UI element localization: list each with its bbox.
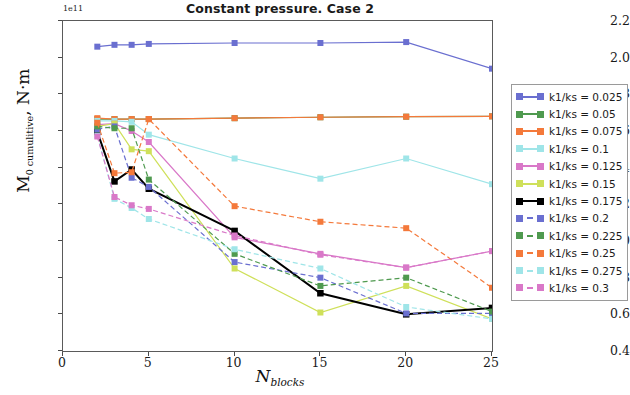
x-tick-label: 0 — [58, 355, 66, 370]
series-path — [97, 116, 492, 119]
x-tick-mark — [319, 352, 320, 356]
legend-label: k1/ks = 0.125 — [545, 160, 622, 172]
data-point-marker — [129, 169, 135, 175]
legend-marker — [516, 215, 523, 222]
y-tick-label: 2.2 — [572, 13, 630, 28]
legend-marker — [537, 111, 544, 118]
legend-item[interactable]: k1/ks = 0.275 — [515, 262, 625, 279]
legend-marker — [516, 111, 523, 118]
data-point-marker — [146, 41, 152, 47]
data-point-marker — [403, 304, 409, 310]
legend-swatch — [515, 247, 545, 259]
data-point-marker — [111, 194, 117, 200]
data-point-marker — [317, 252, 323, 258]
data-point-marker — [403, 283, 409, 289]
data-point-marker — [317, 40, 323, 46]
data-point-marker — [317, 176, 323, 182]
data-point-marker — [146, 116, 152, 122]
legend-item[interactable]: k1/ks = 0.2 — [515, 210, 625, 227]
x-axis-label: Nblocks — [170, 366, 390, 388]
legend-label: k1/ks = 0.1 — [545, 143, 609, 155]
data-point-marker — [489, 66, 492, 72]
series-path — [97, 124, 492, 268]
legend-marker — [516, 250, 523, 257]
x-tick-mark — [148, 352, 149, 356]
legend-item[interactable]: k1/ks = 0.15 — [515, 175, 625, 192]
legend-item[interactable]: k1/ks = 0.075 — [515, 123, 625, 140]
legend-label: k1/ks = 0.2 — [545, 212, 609, 224]
legend-label: k1/ks = 0.05 — [545, 108, 616, 120]
y-axis-label-subscript: 0 cumulitive — [24, 116, 35, 176]
data-point-marker — [403, 156, 409, 162]
data-point-marker — [146, 216, 152, 222]
legend-item[interactable]: k1/ks = 0.175 — [515, 192, 625, 209]
data-point-marker — [129, 119, 135, 125]
series-line — [94, 116, 492, 291]
x-tick-mark — [62, 352, 63, 356]
legend-swatch — [515, 230, 545, 242]
data-point-marker — [129, 125, 135, 131]
data-point-marker — [94, 120, 100, 126]
x-tick-mark — [491, 352, 492, 356]
chart-title: Constant pressure. Case 2 — [95, 1, 465, 16]
series-line — [94, 121, 492, 322]
y-axis-label: M0 cumulitive, N·m — [13, 11, 34, 251]
legend-marker — [516, 128, 523, 135]
x-tick-label: 20 — [397, 355, 413, 370]
data-point-marker — [232, 203, 238, 209]
legend-marker — [537, 180, 544, 187]
legend-item[interactable]: k1/ks = 0.025 — [515, 88, 625, 105]
data-point-marker — [146, 206, 152, 212]
data-point-marker — [317, 275, 323, 281]
legend-item[interactable]: k1/ks = 0.225 — [515, 227, 625, 244]
data-point-marker — [146, 184, 152, 190]
legend-item[interactable]: k1/ks = 0.05 — [515, 105, 625, 122]
x-tick-label: 25 — [483, 355, 499, 370]
legend-marker — [537, 93, 544, 100]
series-line — [94, 123, 492, 316]
y-tick-label: 0.6 — [572, 306, 630, 321]
chart-figure: Constant pressure. Case 2 1e11 0.40.60.8… — [0, 0, 630, 395]
data-point-marker — [489, 113, 492, 119]
series-line — [94, 118, 492, 187]
plot-canvas — [63, 21, 492, 351]
legend-marker — [537, 145, 544, 152]
series-path — [97, 136, 492, 319]
data-point-marker — [232, 259, 238, 265]
legend-marker — [537, 163, 544, 170]
legend-item[interactable]: k1/ks = 0.25 — [515, 245, 625, 262]
plot-area — [62, 20, 493, 352]
legend-label: k1/ks = 0.025 — [545, 91, 622, 103]
legend-marker — [537, 232, 544, 239]
legend-item[interactable]: k1/ks = 0.125 — [515, 158, 625, 175]
legend-marker — [537, 198, 544, 205]
legend-item[interactable]: k1/ks = 0.1 — [515, 140, 625, 157]
series-path — [97, 137, 492, 268]
data-point-marker — [317, 266, 323, 272]
legend-marker — [516, 198, 523, 205]
data-point-marker — [317, 114, 323, 120]
data-point-marker — [403, 265, 409, 271]
x-tick-mark — [405, 352, 406, 356]
series-line — [94, 133, 492, 322]
data-point-marker — [232, 233, 238, 239]
legend-item[interactable]: k1/ks = 0.3 — [515, 279, 625, 296]
data-point-marker — [129, 42, 135, 48]
data-point-marker — [232, 266, 238, 272]
legend-marker — [537, 215, 544, 222]
x-axis-label-main: N — [256, 366, 271, 386]
legend-marker — [537, 267, 544, 274]
legend-label: k1/ks = 0.25 — [545, 247, 616, 259]
y-axis-label-main: M — [13, 175, 33, 192]
data-point-marker — [232, 156, 238, 162]
series-line — [94, 123, 492, 314]
legend-marker — [537, 128, 544, 135]
data-point-marker — [232, 40, 238, 46]
x-axis-label-subscript: blocks — [270, 376, 304, 388]
data-point-marker — [129, 202, 135, 208]
data-point-marker — [489, 316, 492, 322]
legend-label: k1/ks = 0.175 — [545, 195, 622, 207]
legend-marker — [516, 232, 523, 239]
data-point-marker — [403, 275, 409, 281]
series-path — [97, 126, 492, 311]
